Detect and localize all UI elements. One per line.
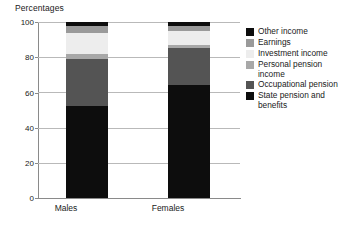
bar-segment — [66, 33, 108, 54]
legend-swatch-icon — [246, 50, 254, 58]
bar-segment — [168, 45, 210, 49]
legend-item-label: Earnings — [258, 38, 291, 48]
bar-segment — [66, 54, 108, 59]
bar-segment — [168, 85, 210, 198]
legend-item-label: Personal pension income — [258, 60, 322, 79]
y-tick-label: 100 — [4, 19, 34, 27]
chart-axis-title: Percentages — [15, 3, 64, 13]
legend-item-label: State pension and benefits — [258, 91, 325, 110]
legend-item-investment-income[interactable]: Investment income — [246, 49, 349, 59]
legend-item-other-income[interactable]: Other income — [246, 27, 349, 37]
chart-container: Percentages 100 80 60 40 20 0 Males Fema… — [0, 0, 349, 225]
legend-swatch-icon — [246, 61, 254, 69]
x-axis-line — [38, 198, 241, 199]
legend-item-label: Occupational pension — [258, 80, 338, 90]
bar-segment — [66, 26, 108, 33]
bar-segment — [168, 26, 210, 31]
legend: Other income Earnings Investment income … — [246, 27, 349, 111]
legend-swatch-icon — [246, 39, 254, 47]
legend-item-label: Investment income — [258, 49, 328, 59]
legend-item-occupational-pension[interactable]: Occupational pension — [246, 80, 349, 90]
bar-segment — [168, 22, 210, 26]
y-tick-label: 80 — [4, 54, 34, 62]
bar-segment — [168, 48, 210, 85]
legend-swatch-icon — [246, 92, 254, 100]
legend-swatch-icon — [246, 28, 254, 36]
bar-segment — [66, 22, 108, 26]
y-tick-label: 0 — [4, 195, 34, 203]
legend-item-personal-pension-income[interactable]: Personal pension income — [246, 60, 349, 79]
x-axis-label-males: Males — [36, 203, 96, 213]
legend-item-earnings[interactable]: Earnings — [246, 38, 349, 48]
x-axis-label-females: Females — [138, 203, 198, 213]
y-tick-label: 40 — [4, 125, 34, 133]
bar-segment — [66, 106, 108, 198]
y-tick-label: 20 — [4, 160, 34, 168]
bar-segment — [168, 31, 210, 45]
legend-swatch-icon — [246, 81, 254, 89]
legend-item-state-pension-and-benefits[interactable]: State pension and benefits — [246, 91, 349, 110]
y-tick-label: 60 — [4, 90, 34, 98]
legend-item-label: Other income — [258, 27, 308, 37]
bar-segment — [66, 59, 108, 107]
plot-area — [38, 22, 240, 198]
